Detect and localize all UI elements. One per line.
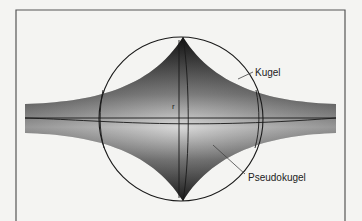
pseudosphere-diagram: r Kugel Pseudokugel	[0, 0, 362, 221]
radius-label: r	[172, 102, 175, 111]
pseudokugel-label: Pseudokugel	[248, 172, 306, 183]
kugel-label: Kugel	[255, 67, 281, 78]
